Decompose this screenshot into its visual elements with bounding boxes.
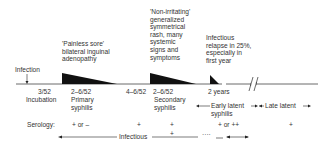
- arrow-right-icon: [308, 105, 311, 108]
- late-latent-label: Late latent: [265, 102, 296, 110]
- primary-time: 2–6/52: [71, 88, 91, 96]
- infectious-label: Infectious: [119, 133, 147, 141]
- gap-time: 4–6/52: [126, 88, 146, 96]
- secondary-wedge: [150, 73, 196, 84]
- arrow-right-icon: [245, 136, 249, 139]
- relapse-wedge: [210, 75, 219, 84]
- secondary-description: 'Non-irritating' generalized symmetrical…: [150, 8, 190, 61]
- infection-arrowhead-icon: [26, 81, 29, 84]
- relapse-description: Infectious relapse in 25%, especially in…: [206, 34, 251, 64]
- serology-secondary-bottom: +: [170, 130, 174, 138]
- secondary-label: Secondary syphilis: [154, 96, 186, 111]
- incubation-label: Incubation: [26, 96, 56, 104]
- primary-description: 'Painless sore' bilateral inguinal adeno…: [62, 40, 110, 63]
- infectious-dots: ····: [202, 131, 211, 139]
- early-latent-label: Early latent syphilis: [211, 102, 244, 117]
- arrow-left-icon: [226, 136, 230, 139]
- serology-late-latent: +: [289, 121, 293, 129]
- serology-primary: +: [137, 121, 141, 129]
- primary-label: Primary syphilis: [71, 96, 94, 111]
- arrow-right-icon: [255, 105, 258, 108]
- secondary-time: 2–6/52: [153, 88, 173, 96]
- arrow-left-icon: [58, 136, 62, 139]
- infection-label: Infection: [15, 66, 40, 74]
- serology-secondary-top: +: [170, 121, 174, 129]
- serology-incubation: + or –: [72, 121, 89, 129]
- incubation-time: 3/52: [38, 88, 51, 96]
- serology-early-latent: + or ++: [218, 121, 239, 129]
- serology-label: Serology:: [27, 121, 55, 129]
- arrow-left-icon: [196, 105, 199, 108]
- primary-wedge: [62, 73, 117, 84]
- early-latent-time: 2 years: [208, 88, 230, 96]
- arrow-left-icon: [259, 105, 262, 108]
